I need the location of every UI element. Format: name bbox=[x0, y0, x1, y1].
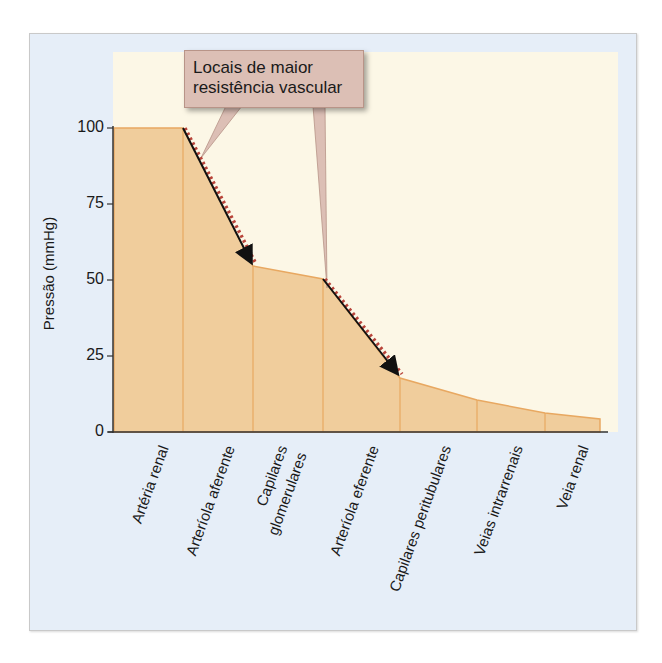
y-axis-label: Pressão (mmHg) bbox=[40, 214, 57, 334]
callout-line-1: Locais de maior bbox=[193, 58, 355, 78]
y-ticks bbox=[107, 128, 113, 432]
y-tick-75: 75 bbox=[64, 194, 104, 212]
y-tick-0: 0 bbox=[64, 422, 104, 440]
y-tick-50: 50 bbox=[64, 270, 104, 288]
callout-line-2: resistência vascular bbox=[193, 78, 355, 98]
callout-pointer-left bbox=[201, 106, 242, 158]
y-tick-100: 100 bbox=[64, 118, 104, 136]
resistance-callout: Locais de maior resistência vascular bbox=[184, 50, 364, 108]
y-tick-25: 25 bbox=[64, 346, 104, 364]
pressure-area bbox=[114, 128, 600, 432]
callout-pointer-right bbox=[313, 106, 327, 288]
